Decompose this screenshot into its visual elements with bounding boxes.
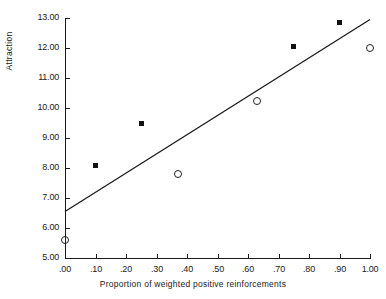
y-axis-tick-label: 6.00 xyxy=(15,222,59,232)
x-axis-tick xyxy=(126,254,127,258)
y-axis-tick-label: 12.00 xyxy=(15,42,59,52)
x-axis-tick xyxy=(218,254,219,258)
x-axis-tick-label: .60 xyxy=(231,264,265,274)
data-point-circle xyxy=(174,170,182,178)
y-axis-tick-label: 7.00 xyxy=(15,192,59,202)
x-axis-tick xyxy=(65,254,66,258)
x-axis-tick xyxy=(309,254,310,258)
x-axis-tick xyxy=(340,254,341,258)
x-axis-tick-label: .20 xyxy=(109,264,143,274)
x-axis-tick xyxy=(96,254,97,258)
x-axis-tick-label: .50 xyxy=(201,264,235,274)
y-axis-tick xyxy=(66,258,70,259)
y-axis-tick xyxy=(66,138,70,139)
x-axis-tick-label: .70 xyxy=(262,264,296,274)
y-axis-tick xyxy=(66,78,70,79)
x-axis-tick-label: 1.00 xyxy=(353,264,386,274)
x-axis-tick-label: .00 xyxy=(48,264,82,274)
x-axis-tick xyxy=(370,254,371,258)
y-axis-tick xyxy=(66,198,70,199)
y-axis-tick-label: 11.00 xyxy=(15,72,59,82)
y-axis-tick-label: 8.00 xyxy=(15,162,59,172)
data-point-circle xyxy=(366,44,374,52)
x-axis-tick xyxy=(187,254,188,258)
y-axis-tick-label: 9.00 xyxy=(15,132,59,142)
x-axis-tick xyxy=(157,254,158,258)
x-axis-tick-label: .80 xyxy=(292,264,326,274)
x-axis-tick-label: .90 xyxy=(323,264,357,274)
x-axis-tick-label: .40 xyxy=(170,264,204,274)
x-axis-title: Proportion of weighted positive reinforc… xyxy=(0,279,386,289)
y-axis-tick xyxy=(66,108,70,109)
y-axis-tick xyxy=(66,48,70,49)
y-axis-tick-label: 5.00 xyxy=(15,252,59,262)
data-point-circle xyxy=(253,97,261,105)
scatter-chart: Attraction 13.0012.0011.0010.009.008.007… xyxy=(0,0,386,299)
x-axis-tick-label: .10 xyxy=(79,264,113,274)
x-axis-tick xyxy=(248,254,249,258)
data-point-square xyxy=(139,121,144,126)
x-axis-tick-label: .30 xyxy=(140,264,174,274)
y-axis-tick xyxy=(66,168,70,169)
y-axis-tick xyxy=(66,18,70,19)
y-axis-tick-label: 10.00 xyxy=(15,102,59,112)
x-axis-line xyxy=(65,258,371,259)
x-axis-tick xyxy=(279,254,280,258)
data-point-square xyxy=(291,44,296,49)
y-axis-title: Attraction xyxy=(4,6,14,96)
y-axis-tick xyxy=(66,228,70,229)
y-axis-tick-label: 13.00 xyxy=(15,12,59,22)
data-point-square xyxy=(337,20,342,25)
data-point-square xyxy=(93,163,98,168)
data-point-circle xyxy=(61,236,69,244)
